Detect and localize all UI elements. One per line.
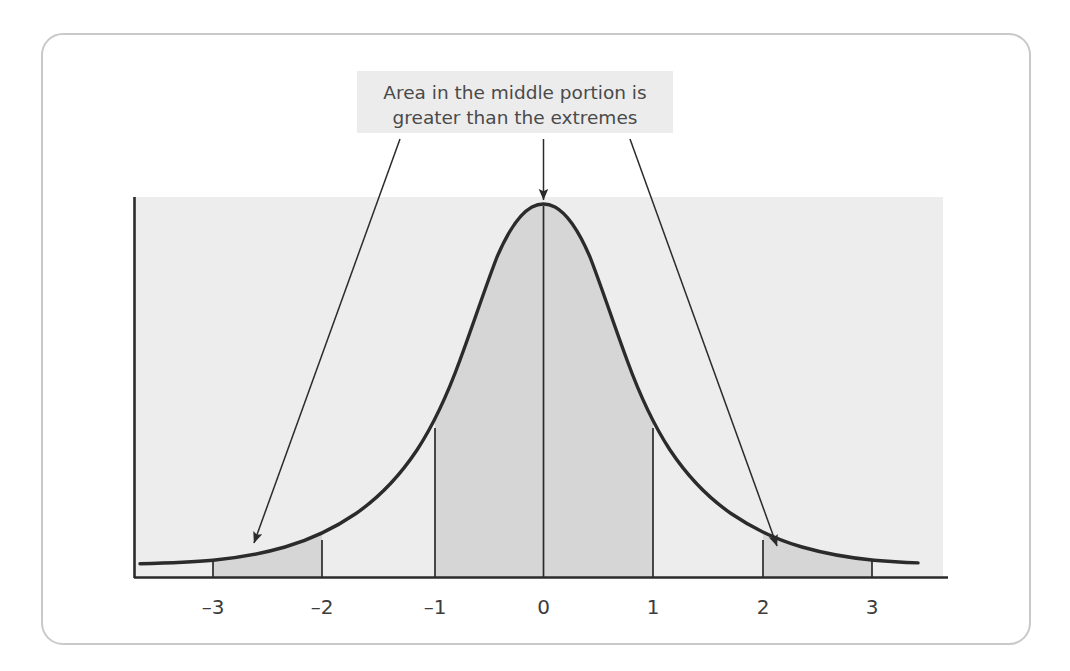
figure-root: Area in the middle portion is greater th… (0, 0, 1070, 671)
normal-distribution-chart: Area in the middle portion is greater th… (0, 0, 1070, 671)
tick-label-neg1: –1 (424, 595, 447, 619)
tick-label-pos3: 3 (866, 595, 879, 619)
tick-label-neg2: –2 (311, 595, 334, 619)
annotation-line-1: Area in the middle portion is (383, 82, 646, 103)
x-axis-tick-labels: –3 –2 –1 0 1 2 3 (202, 595, 879, 619)
tick-label-pos2: 2 (757, 595, 770, 619)
tick-label-neg3: –3 (202, 595, 225, 619)
tick-label-zero: 0 (537, 595, 550, 619)
annotation-line-2: greater than the extremes (393, 107, 638, 128)
tick-label-pos1: 1 (647, 595, 660, 619)
